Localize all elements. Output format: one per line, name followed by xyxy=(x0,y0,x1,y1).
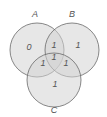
region-ab-only: 1 xyxy=(51,40,56,50)
region-c-only: 1 xyxy=(52,79,57,89)
set-label-a: A xyxy=(31,9,38,19)
region-ac-only: 1 xyxy=(40,58,45,68)
venn-diagram: A B C 0 1 1 1 1 1 1 xyxy=(0,0,107,117)
region-bc-only: 1 xyxy=(63,58,68,68)
region-a-only: 0 xyxy=(26,42,31,52)
set-label-c: C xyxy=(51,105,58,115)
region-b-only: 1 xyxy=(75,40,80,50)
region-abc: 1 xyxy=(51,52,56,62)
circles xyxy=(10,23,99,107)
set-label-b: B xyxy=(69,9,75,19)
